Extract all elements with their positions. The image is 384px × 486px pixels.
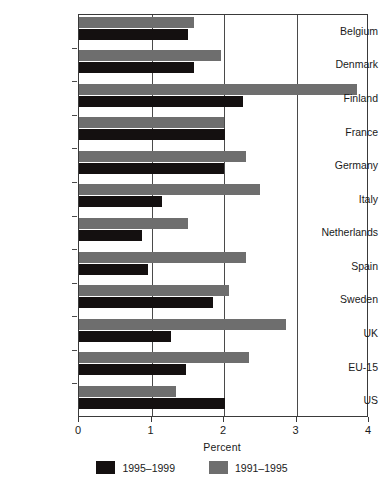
category-tick bbox=[72, 148, 77, 149]
bar-1995-1999 bbox=[79, 96, 243, 107]
x-axis-label: 4 bbox=[353, 424, 383, 436]
legend-swatch bbox=[96, 461, 115, 474]
category-label: Belgium bbox=[306, 25, 378, 37]
legend-item: 1995–1999 bbox=[96, 461, 175, 474]
category-label: EU-15 bbox=[306, 361, 378, 373]
category-label: Netherlands bbox=[306, 226, 378, 238]
legend-label: 1991–1995 bbox=[235, 462, 288, 474]
category-label: Italy bbox=[306, 193, 378, 205]
category-label: Finland bbox=[306, 92, 378, 104]
bar-1991-1995 bbox=[79, 151, 246, 162]
bar-1995-1999 bbox=[79, 331, 171, 342]
category-label: UK bbox=[306, 327, 378, 339]
chart-legend: 1995–19991991–1995 bbox=[0, 461, 384, 474]
bar-1995-1999 bbox=[79, 62, 194, 73]
bar-1991-1995 bbox=[79, 17, 194, 28]
x-axis-tick bbox=[78, 417, 79, 422]
bar-1995-1999 bbox=[79, 196, 162, 207]
bar-1991-1995 bbox=[79, 218, 188, 229]
x-axis-tick bbox=[368, 417, 369, 422]
bar-1991-1995 bbox=[79, 184, 260, 195]
category-tick bbox=[72, 283, 77, 284]
bar-1995-1999 bbox=[79, 129, 225, 140]
category-label: France bbox=[306, 126, 378, 138]
bar-1991-1995 bbox=[79, 252, 246, 263]
x-axis-label: 2 bbox=[208, 424, 238, 436]
category-tick bbox=[72, 182, 77, 183]
bar-1991-1995 bbox=[79, 285, 229, 296]
category-tick bbox=[72, 316, 77, 317]
category-label: Sweden bbox=[306, 293, 378, 305]
bar-1995-1999 bbox=[79, 29, 188, 40]
category-tick bbox=[72, 383, 77, 384]
bar-1995-1999 bbox=[79, 230, 142, 241]
category-label: Spain bbox=[306, 260, 378, 272]
x-axis-tick bbox=[151, 417, 152, 422]
bar-1995-1999 bbox=[79, 297, 213, 308]
category-label: US bbox=[306, 394, 378, 406]
x-axis-label: 1 bbox=[136, 424, 166, 436]
x-axis-title: Percent bbox=[0, 441, 384, 453]
bar-1991-1995 bbox=[79, 50, 221, 61]
category-tick bbox=[72, 216, 77, 217]
legend-label: 1995–1999 bbox=[122, 462, 175, 474]
category-tick bbox=[72, 249, 77, 250]
x-axis-label: 0 bbox=[63, 424, 93, 436]
bar-1991-1995 bbox=[79, 352, 249, 363]
x-axis-label: 3 bbox=[281, 424, 311, 436]
bar-1995-1999 bbox=[79, 398, 225, 409]
bar-1991-1995 bbox=[79, 117, 224, 128]
category-tick bbox=[72, 115, 77, 116]
plot-area bbox=[78, 14, 368, 417]
bar-1995-1999 bbox=[79, 264, 148, 275]
bar-1991-1995 bbox=[79, 386, 176, 397]
legend-item: 1991–1995 bbox=[209, 461, 288, 474]
bar-1995-1999 bbox=[79, 364, 186, 375]
category-tick bbox=[72, 48, 77, 49]
category-tick bbox=[72, 81, 77, 82]
bar-1995-1999 bbox=[79, 163, 224, 174]
category-label: Germany bbox=[306, 159, 378, 171]
category-label: Denmark bbox=[306, 58, 378, 70]
legend-swatch bbox=[209, 461, 228, 474]
x-axis-tick bbox=[296, 417, 297, 422]
category-tick bbox=[72, 350, 77, 351]
bar-1991-1995 bbox=[79, 319, 286, 330]
x-axis-tick bbox=[223, 417, 224, 422]
bar-chart: BelgiumDenmarkFinlandFranceGermanyItalyN… bbox=[0, 0, 384, 486]
